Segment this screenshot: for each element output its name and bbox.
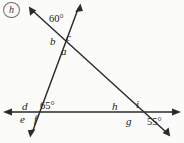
angle-55-label: 55° [147,117,162,128]
geometry-figure: h 60° b c a d 65° e f h i g 55° [0,0,184,143]
angle-b-label: b [50,36,56,47]
angle-i-label: i [136,99,139,110]
angle-h-label: h [112,101,118,112]
diagonal-line [33,11,166,132]
angle-60-label: 60° [49,14,64,25]
arrow-left-horizontal [3,108,12,115]
arrow-up-steep [75,4,83,13]
angle-e-label: e [20,114,25,125]
angle-f-label: f [34,114,37,125]
angle-65-label: 65° [40,101,55,112]
angle-c-label: c [66,32,71,43]
angle-d-label: d [22,101,28,112]
angle-g-label: g [126,116,132,127]
arrow-down-diagonal [163,127,171,136]
steep-line [32,9,78,133]
arrow-up-diagonal [29,7,36,16]
angle-a-label: a [61,46,67,57]
arrow-down-steep [28,129,36,137]
arrow-right-horizontal [172,108,181,115]
